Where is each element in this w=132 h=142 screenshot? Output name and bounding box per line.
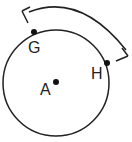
- point-h: [104, 60, 110, 66]
- label-a: A: [40, 81, 51, 98]
- arc-arrow: [29, 7, 126, 50]
- arrowhead-left-icon: [22, 7, 30, 23]
- label-g: G: [28, 39, 40, 56]
- point-a: [53, 79, 59, 85]
- label-h: H: [91, 65, 103, 82]
- arrowhead-right-icon: [116, 48, 128, 61]
- point-g: [31, 29, 37, 35]
- diagram-canvas: G H A: [0, 0, 132, 142]
- circle-diagram: G H A: [0, 0, 132, 142]
